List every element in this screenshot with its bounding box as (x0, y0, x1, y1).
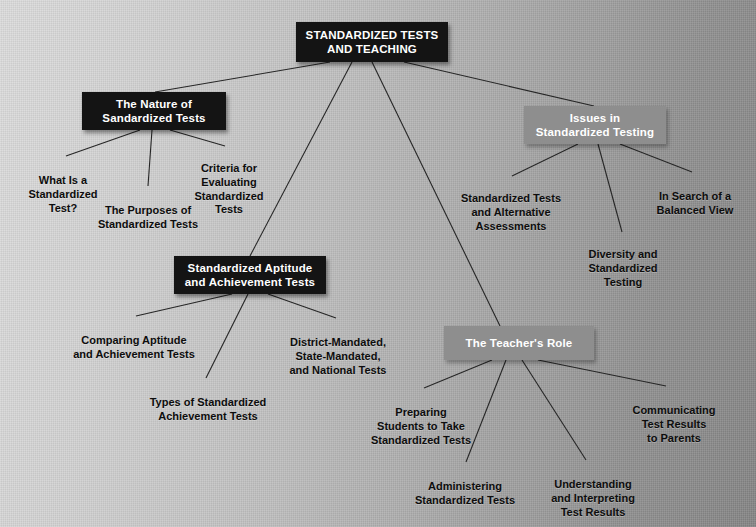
leaf-alternative-label: Standardized Tests and Alternative Asses… (446, 192, 576, 234)
leaf-understanding-and-interpreting-test-results: Understanding and Interpreting Test Resu… (534, 464, 652, 527)
leaf-types-label: Types of Standardized Achievement Tests (134, 396, 282, 424)
leaf-district-label: District-Mandated, State-Mandated, and N… (278, 336, 398, 378)
edge-nature-what (66, 130, 140, 156)
leaf-diversity-label: Diversity and Standardized Testing (572, 248, 674, 290)
edge-issues-balanced (620, 144, 692, 172)
leaf-administering-label: Administering Standardized Tests (404, 480, 526, 508)
leaf-communicating-test-results-to-parents: Communicating Test Results to Parents (614, 390, 734, 459)
concept-map-canvas: STANDARDIZED TESTS AND TEACHING The Natu… (0, 0, 756, 527)
edge-nature-purposes (148, 130, 152, 186)
leaf-comparing-label: Comparing Aptitude and Achievement Tests (58, 334, 210, 362)
leaf-preparing-students-to-take-standardized-tests: Preparing Students to Take Standardized … (358, 392, 484, 461)
edge-issues-diversity (598, 144, 622, 232)
edge-teacher-understanding (522, 360, 586, 460)
node-teachers-role: The Teacher's Role (444, 326, 594, 360)
leaf-diversity-and-standardized-testing: Diversity and Standardized Testing (572, 234, 674, 303)
node-standardized-aptitude-and-achievement-tests: Standardized Aptitude and Achievement Te… (174, 256, 326, 294)
edge-aptitude-comparing (136, 294, 232, 316)
leaf-criteria-label: Criteria for Evaluating Standardized Tes… (176, 162, 282, 217)
edge-teacher-communicating (538, 360, 666, 386)
leaf-criteria-for-evaluating-standardized-tests: Criteria for Evaluating Standardized Tes… (176, 148, 282, 231)
edge-aptitude-district (268, 294, 336, 318)
node-root-label: STANDARDIZED TESTS AND TEACHING (306, 28, 439, 56)
leaf-communicating-label: Communicating Test Results to Parents (614, 404, 734, 446)
leaf-standardized-tests-and-alternative-assessments: Standardized Tests and Alternative Asses… (446, 178, 576, 247)
leaf-balanced-label: In Search of a Balanced View (640, 190, 750, 218)
leaf-administering-standardized-tests: Administering Standardized Tests (404, 466, 526, 521)
node-issues-in-standardized-testing: Issues in Standardized Testing (524, 106, 666, 144)
node-aptitude-label: Standardized Aptitude and Achievement Te… (185, 261, 315, 289)
leaf-district-state-mandated-and-national-tests: District-Mandated, State-Mandated, and N… (278, 322, 398, 391)
node-nature-of-standardized-tests: The Nature of Sandardized Tests (82, 92, 226, 130)
node-root: STANDARDIZED TESTS AND TEACHING (296, 22, 448, 62)
node-teacher-label: The Teacher's Role (466, 336, 573, 350)
leaf-types-of-standardized-achievement-tests: Types of Standardized Achievement Tests (134, 382, 282, 437)
leaf-preparing-label: Preparing Students to Take Standardized … (358, 406, 484, 448)
edge-nature-criteria (170, 130, 225, 146)
edge-root-nature (155, 62, 330, 92)
leaf-understanding-label: Understanding and Interpreting Test Resu… (534, 478, 652, 520)
edge-root-issues (404, 62, 594, 106)
leaf-in-search-of-a-balanced-view: In Search of a Balanced View (640, 176, 750, 231)
edge-issues-alternative (512, 144, 578, 176)
node-issues-label: Issues in Standardized Testing (536, 111, 654, 139)
edge-teacher-preparing (424, 360, 492, 388)
node-nature-label: The Nature of Sandardized Tests (102, 97, 205, 125)
leaf-comparing-aptitude-and-achievement-tests: Comparing Aptitude and Achievement Tests (58, 320, 210, 375)
edge-aptitude-types (206, 294, 248, 378)
